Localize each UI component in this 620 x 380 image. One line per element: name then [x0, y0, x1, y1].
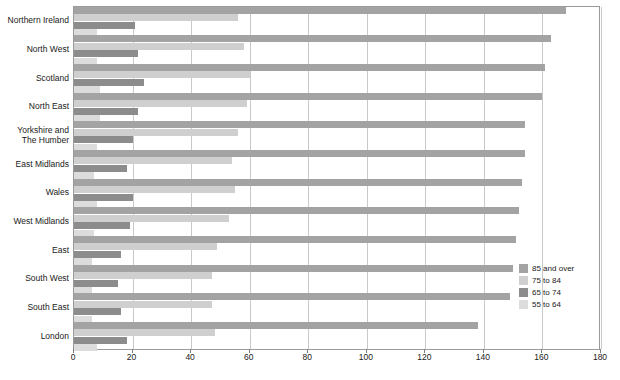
- legend-item[interactable]: 75 to 84: [519, 275, 609, 286]
- x-tick-label: 160: [534, 352, 548, 362]
- x-tick-mark: [424, 349, 425, 353]
- legend-swatch-icon: [519, 300, 528, 309]
- bar-0: [74, 207, 519, 214]
- bar-2: [74, 194, 133, 201]
- category-label: North West: [27, 44, 69, 54]
- bar-2: [74, 50, 138, 57]
- category-label: Northern Ireland: [8, 15, 69, 25]
- category-label: North East: [29, 101, 69, 111]
- bar-1: [74, 272, 212, 279]
- bar-2: [74, 165, 127, 172]
- bar-group: [74, 322, 599, 351]
- x-tick-label: 40: [185, 352, 194, 362]
- bar-group: [74, 64, 599, 93]
- x-tick-mark: [73, 349, 74, 353]
- bar-2: [74, 280, 118, 287]
- x-tick-mark: [366, 349, 367, 353]
- legend-swatch-icon: [519, 288, 528, 297]
- x-tick-mark: [541, 349, 542, 353]
- bar-2: [74, 308, 121, 315]
- bar-group: [74, 208, 599, 237]
- x-tick-mark: [483, 349, 484, 353]
- category-label: South West: [25, 273, 69, 283]
- category-label: Scotland: [36, 73, 69, 83]
- category-label: South East: [27, 302, 69, 312]
- legend-item[interactable]: 65 to 74: [519, 287, 609, 298]
- bar-3: [74, 344, 97, 351]
- bar-0: [74, 265, 513, 272]
- bar-1: [74, 157, 232, 164]
- bar-0: [74, 35, 551, 42]
- legend-swatch-icon: [519, 264, 528, 273]
- bar-2: [74, 251, 121, 258]
- bar-0: [74, 293, 510, 300]
- bar-0: [74, 7, 566, 14]
- x-tick-mark: [307, 349, 308, 353]
- bar-group: [74, 122, 599, 151]
- x-tick-label: 60: [244, 352, 253, 362]
- bar-2: [74, 22, 135, 29]
- bar-2: [74, 222, 130, 229]
- bar-1: [74, 215, 229, 222]
- bar-group: [74, 36, 599, 65]
- bar-0: [74, 121, 525, 128]
- bar-group: [74, 150, 599, 179]
- category-label: East: [52, 245, 69, 255]
- bar-0: [74, 64, 545, 71]
- bar-chart: Northern IrelandNorth WestScotlandNorth …: [0, 0, 620, 380]
- x-tick-mark: [190, 349, 191, 353]
- chart-legend: 85 and over75 to 8465 to 7455 to 64: [519, 263, 609, 311]
- x-tick-label: 100: [359, 352, 373, 362]
- x-tick-label: 0: [71, 352, 76, 362]
- x-tick-mark: [249, 349, 250, 353]
- bar-1: [74, 329, 215, 336]
- category-label: West Midlands: [13, 216, 69, 226]
- bar-1: [74, 71, 250, 78]
- value-axis: 020406080100120140160180: [0, 352, 620, 372]
- bar-0: [74, 179, 522, 186]
- bar-1: [74, 129, 238, 136]
- bar-2: [74, 337, 127, 344]
- legend-label: 55 to 64: [532, 300, 561, 309]
- bar-1: [74, 100, 247, 107]
- category-label: London: [41, 331, 69, 341]
- x-tick-mark: [132, 349, 133, 353]
- bar-0: [74, 93, 542, 100]
- category-axis: Northern IrelandNorth WestScotlandNorth …: [0, 0, 73, 350]
- bar-0: [74, 150, 525, 157]
- bar-0: [74, 322, 478, 329]
- bar-group: [74, 236, 599, 265]
- category-label: East Midlands: [16, 159, 69, 169]
- legend-label: 85 and over: [532, 264, 574, 273]
- x-tick-mark: [600, 349, 601, 353]
- category-label: Wales: [46, 187, 69, 197]
- legend-item[interactable]: 85 and over: [519, 263, 609, 274]
- bar-group: [74, 179, 599, 208]
- bar-1: [74, 186, 235, 193]
- legend-label: 65 to 74: [532, 288, 561, 297]
- x-tick-label: 140: [476, 352, 490, 362]
- x-tick-label: 120: [417, 352, 431, 362]
- bar-2: [74, 79, 144, 86]
- bar-group: [74, 7, 599, 36]
- bar-1: [74, 14, 238, 21]
- legend-item[interactable]: 55 to 64: [519, 299, 609, 310]
- x-tick-label: 180: [593, 352, 607, 362]
- legend-label: 75 to 84: [532, 276, 561, 285]
- bar-2: [74, 108, 138, 115]
- category-label: Yorkshire and The Humber: [17, 125, 69, 145]
- bar-2: [74, 136, 133, 143]
- bar-1: [74, 243, 217, 250]
- x-tick-label: 80: [302, 352, 311, 362]
- legend-swatch-icon: [519, 276, 528, 285]
- x-tick-label: 20: [127, 352, 136, 362]
- bar-group: [74, 93, 599, 122]
- bar-1: [74, 301, 212, 308]
- bar-1: [74, 43, 244, 50]
- bar-0: [74, 236, 516, 243]
